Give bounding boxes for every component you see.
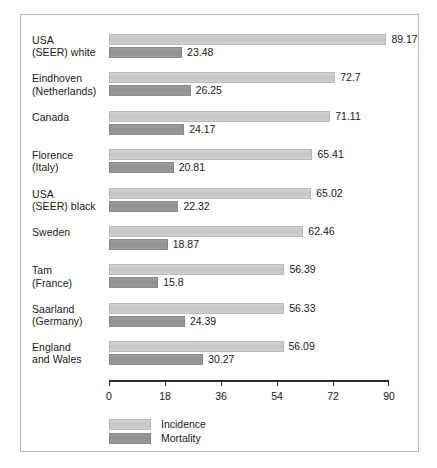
bar-incidence bbox=[109, 72, 335, 83]
bar-value-label: 56.33 bbox=[289, 302, 315, 314]
bar-row-incidence: 56.39 bbox=[21, 264, 418, 275]
x-axis-tick bbox=[333, 380, 334, 386]
bar-group: USA (SEER) white89.1723.48 bbox=[21, 30, 418, 56]
bar-row-incidence: 56.33 bbox=[21, 303, 418, 314]
bar-row-mortality: 15.8 bbox=[21, 277, 418, 288]
bar-row-incidence: 71.11 bbox=[21, 111, 418, 122]
bar-row-mortality: 30.27 bbox=[21, 354, 418, 365]
bar-incidence bbox=[109, 188, 311, 199]
bar-row-mortality: 18.87 bbox=[21, 239, 418, 250]
x-axis-tick-label: 0 bbox=[106, 390, 112, 402]
x-axis-tick bbox=[388, 380, 389, 386]
bar-incidence bbox=[109, 34, 386, 45]
bar-incidence bbox=[109, 111, 330, 122]
bar-mortality bbox=[109, 162, 174, 173]
bar-incidence bbox=[109, 341, 284, 352]
bar-group: Tam (France)56.3915.8 bbox=[21, 260, 418, 286]
bar-value-label: 23.48 bbox=[187, 46, 213, 58]
bar-value-label: 15.8 bbox=[163, 276, 183, 288]
x-axis-tick-label: 54 bbox=[271, 390, 283, 402]
legend-label-mortality: Mortality bbox=[161, 432, 201, 444]
bar-value-label: 71.11 bbox=[335, 110, 361, 122]
chart-panel: USA (SEER) white89.1723.48Eindhoven (Net… bbox=[20, 14, 419, 452]
bar-value-label: 24.17 bbox=[189, 123, 215, 135]
x-axis-tick bbox=[165, 380, 166, 386]
bar-row-incidence: 56.09 bbox=[21, 341, 418, 352]
bar-mortality bbox=[109, 354, 203, 365]
bar-row-incidence: 72.7 bbox=[21, 72, 418, 83]
bar-row-mortality: 26.25 bbox=[21, 85, 418, 96]
bar-row-mortality: 24.39 bbox=[21, 316, 418, 327]
bar-group: England and Wales56.0930.27 bbox=[21, 337, 418, 363]
plot-area: USA (SEER) white89.1723.48Eindhoven (Net… bbox=[21, 15, 418, 451]
bar-value-label: 56.09 bbox=[289, 340, 315, 352]
bar-group: Saarland (Germany)56.3324.39 bbox=[21, 299, 418, 325]
bar-value-label: 24.39 bbox=[190, 315, 216, 327]
bar-value-label: 62.46 bbox=[308, 225, 334, 237]
x-axis-tick bbox=[109, 380, 110, 386]
bar-incidence bbox=[109, 264, 284, 275]
bar-mortality bbox=[109, 239, 168, 250]
bar-row-mortality: 24.17 bbox=[21, 124, 418, 135]
bar-mortality bbox=[109, 47, 182, 58]
bar-row-mortality: 20.81 bbox=[21, 162, 418, 173]
bar-group: Florence (Italy)65.4120.81 bbox=[21, 145, 418, 171]
x-axis: 01836547290 bbox=[109, 380, 389, 381]
bar-group: Canada71.1124.17 bbox=[21, 107, 418, 133]
bar-incidence bbox=[109, 303, 284, 314]
bar-incidence bbox=[109, 226, 303, 237]
x-axis-tick-label: 72 bbox=[327, 390, 339, 402]
bar-row-incidence: 65.02 bbox=[21, 188, 418, 199]
bar-group: USA (SEER) black65.0222.32 bbox=[21, 184, 418, 210]
bar-row-incidence: 65.41 bbox=[21, 149, 418, 160]
bar-row-incidence: 62.46 bbox=[21, 226, 418, 237]
bar-mortality bbox=[109, 85, 191, 96]
x-axis-tick bbox=[277, 380, 278, 386]
bar-value-label: 56.39 bbox=[289, 263, 315, 275]
bar-mortality bbox=[109, 201, 178, 212]
bar-value-label: 26.25 bbox=[196, 84, 222, 96]
incidence-swatch bbox=[109, 419, 151, 430]
legend-label-incidence: Incidence bbox=[161, 418, 206, 430]
x-axis-tick bbox=[221, 380, 222, 386]
x-axis-tick-label: 36 bbox=[215, 390, 227, 402]
x-axis-tick-label: 18 bbox=[159, 390, 171, 402]
bar-mortality bbox=[109, 277, 158, 288]
bar-value-label: 22.32 bbox=[183, 200, 209, 212]
bar-row-incidence: 89.17 bbox=[21, 34, 418, 45]
bar-group: Sweden62.4618.87 bbox=[21, 222, 418, 248]
bar-value-label: 20.81 bbox=[179, 161, 205, 173]
bar-value-label: 18.87 bbox=[173, 238, 199, 250]
bar-group: Eindhoven (Netherlands)72.726.25 bbox=[21, 68, 418, 94]
bar-value-label: 89.17 bbox=[391, 33, 417, 45]
bar-value-label: 65.41 bbox=[317, 148, 343, 160]
bar-row-mortality: 23.48 bbox=[21, 47, 418, 58]
bar-value-label: 72.7 bbox=[340, 71, 360, 83]
bar-value-label: 30.27 bbox=[208, 353, 234, 365]
mortality-swatch bbox=[109, 433, 151, 444]
bar-incidence bbox=[109, 149, 312, 160]
bar-mortality bbox=[109, 316, 185, 327]
bar-value-label: 65.02 bbox=[316, 187, 342, 199]
bar-mortality bbox=[109, 124, 184, 135]
x-axis-line bbox=[109, 380, 389, 382]
x-axis-tick-label: 90 bbox=[383, 390, 395, 402]
bar-row-mortality: 22.32 bbox=[21, 201, 418, 212]
